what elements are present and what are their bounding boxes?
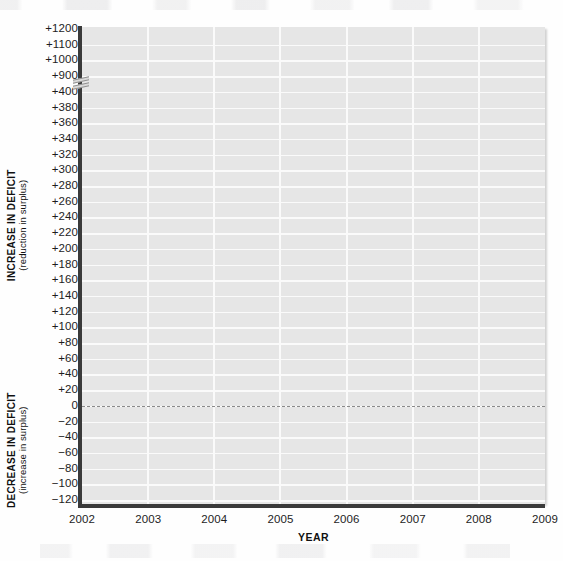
y-axis-tick-label: −40 bbox=[32, 430, 78, 442]
gridline-horizontal bbox=[82, 217, 545, 219]
gridline-horizontal bbox=[82, 374, 545, 376]
gridline-vertical bbox=[279, 27, 281, 504]
y-axis-tick-labels: +1200+1100+1000+900+400+380+360+340+320+… bbox=[28, 27, 78, 504]
y-axis-tick-label: 0 bbox=[32, 399, 78, 411]
y-axis-tick-label: −100 bbox=[32, 477, 78, 489]
x-axis-tick-label: 2008 bbox=[449, 513, 509, 525]
gridline-horizontal bbox=[82, 437, 545, 439]
chart-plot-area bbox=[82, 27, 545, 504]
y-axis-title-increase-sub: (reduction in surplus) bbox=[17, 169, 28, 281]
y-axis-tick-label: +220 bbox=[32, 226, 78, 238]
gridline-horizontal bbox=[82, 186, 545, 188]
y-axis-tick-label: +280 bbox=[32, 179, 78, 191]
x-axis-tick-label: 2003 bbox=[118, 513, 178, 525]
scan-artifact-bottom bbox=[40, 544, 510, 558]
x-axis-title: YEAR bbox=[82, 531, 545, 543]
gridline-horizontal bbox=[82, 359, 545, 361]
gridline-horizontal bbox=[82, 484, 545, 486]
gridline-horizontal bbox=[82, 45, 545, 47]
gridline-horizontal bbox=[82, 500, 545, 502]
gridline-horizontal bbox=[82, 280, 545, 282]
y-axis-tick-label: +180 bbox=[32, 258, 78, 270]
y-axis-tick-label: +340 bbox=[32, 132, 78, 144]
gridline-horizontal bbox=[82, 123, 545, 125]
x-axis-tick-label: 2006 bbox=[317, 513, 377, 525]
y-axis-tick-label: −80 bbox=[32, 462, 78, 474]
x-axis-tick-label: 2002 bbox=[52, 513, 112, 525]
gridline-horizontal bbox=[82, 390, 545, 392]
y-axis-tick-label: +140 bbox=[32, 289, 78, 301]
x-axis-tick-label: 2007 bbox=[383, 513, 443, 525]
gridline-vertical bbox=[478, 27, 480, 504]
chart-plot-frame bbox=[82, 27, 545, 504]
y-axis-title-increase-main: INCREASE IN DEFICIT bbox=[6, 169, 18, 281]
y-axis-tick-label: +360 bbox=[32, 116, 78, 128]
gridline-horizontal bbox=[82, 312, 545, 314]
gridline-vertical bbox=[147, 27, 149, 504]
scan-artifact-top bbox=[0, 0, 563, 10]
x-axis-tick-label: 2005 bbox=[250, 513, 310, 525]
x-axis-tick-label: 2009 bbox=[515, 513, 563, 525]
y-axis-tick-label: −20 bbox=[32, 415, 78, 427]
axis-break-icon bbox=[73, 78, 89, 92]
y-axis-tick-label: −60 bbox=[32, 446, 78, 458]
gridline-horizontal bbox=[82, 327, 545, 329]
gridline-horizontal bbox=[82, 343, 545, 345]
gridline-horizontal bbox=[82, 453, 545, 455]
gridline-horizontal bbox=[82, 249, 545, 251]
y-axis-tick-label: +1200 bbox=[32, 22, 78, 34]
y-axis-tick-label: +120 bbox=[32, 305, 78, 317]
y-axis-tick-label: −120 bbox=[32, 493, 78, 505]
x-axis-tick-labels: 20022003200420052006200720082009 bbox=[82, 513, 545, 529]
gridline-horizontal bbox=[82, 469, 545, 471]
gridline-horizontal bbox=[82, 422, 545, 424]
gridline-horizontal bbox=[82, 233, 545, 235]
x-axis-spine bbox=[78, 504, 545, 508]
y-axis-tick-label: +200 bbox=[32, 242, 78, 254]
y-axis-tick-label: +240 bbox=[32, 210, 78, 222]
y-axis-tick-label: +80 bbox=[32, 336, 78, 348]
gridline-horizontal bbox=[82, 170, 545, 172]
gridline-horizontal bbox=[82, 139, 545, 141]
y-axis-tick-label: +320 bbox=[32, 148, 78, 160]
y-axis-tick-label: +160 bbox=[32, 273, 78, 285]
gridline-horizontal bbox=[82, 155, 545, 157]
x-axis-tick-label: 2004 bbox=[184, 513, 244, 525]
y-axis-tick-label: +1100 bbox=[32, 38, 78, 50]
y-axis-spine bbox=[78, 26, 82, 505]
y-axis-tick-label: +260 bbox=[32, 195, 78, 207]
y-axis-title-decrease-main: DECREASE IN DEFICIT bbox=[6, 392, 18, 508]
y-axis-title-decrease-sub: (increase in surplus) bbox=[17, 392, 28, 508]
gridline-horizontal bbox=[82, 265, 545, 267]
gridline-horizontal bbox=[82, 108, 545, 110]
zero-reference-line bbox=[82, 406, 545, 407]
gridline-vertical bbox=[346, 27, 348, 504]
gridline-horizontal bbox=[82, 296, 545, 298]
gridline-horizontal bbox=[82, 60, 545, 62]
y-axis-tick-label: +300 bbox=[32, 163, 78, 175]
y-axis-tick-label: +400 bbox=[32, 85, 78, 97]
y-axis-tick-label: +100 bbox=[32, 320, 78, 332]
y-axis-tick-label: +900 bbox=[32, 69, 78, 81]
gridline-horizontal bbox=[82, 202, 545, 204]
y-axis-tick-label: +20 bbox=[32, 383, 78, 395]
y-axis-tick-label: +40 bbox=[32, 367, 78, 379]
y-axis-tick-label: +1000 bbox=[32, 53, 78, 65]
gridline-horizontal bbox=[82, 92, 545, 94]
gridline-horizontal bbox=[82, 76, 545, 78]
y-axis-tick-label: +60 bbox=[32, 352, 78, 364]
gridline-vertical bbox=[412, 27, 414, 504]
y-axis-tick-label: +380 bbox=[32, 101, 78, 113]
gridline-vertical bbox=[213, 27, 215, 504]
